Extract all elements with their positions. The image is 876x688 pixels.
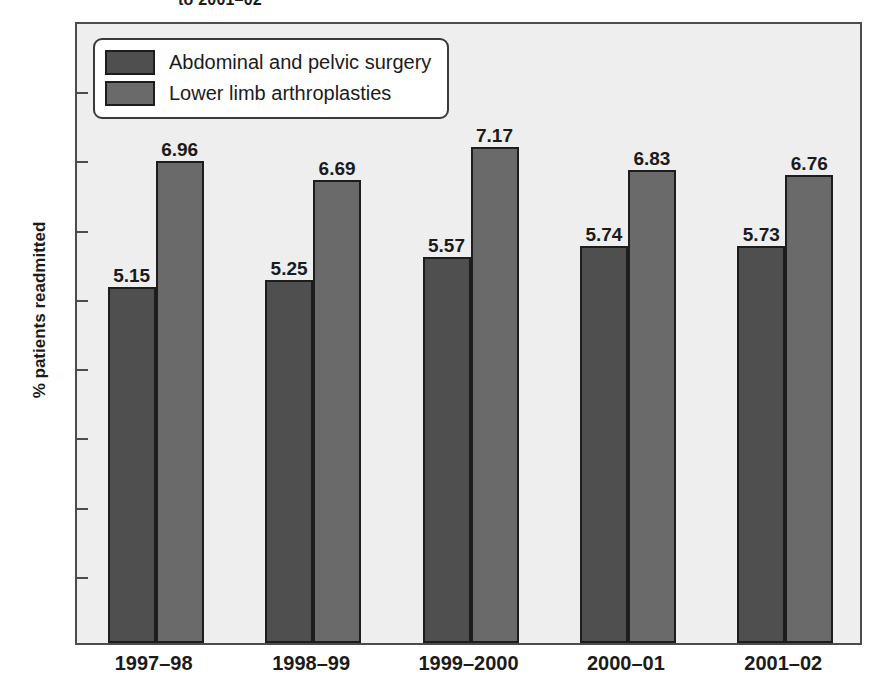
bar-value-label: 7.17 bbox=[476, 125, 513, 147]
legend-item[interactable]: Abdominal and pelvic surgery bbox=[105, 47, 431, 78]
y-axis-tick bbox=[77, 508, 88, 510]
y-axis-tick bbox=[77, 369, 88, 371]
x-axis-tick-label: 1998–99 bbox=[272, 652, 350, 675]
bar bbox=[313, 180, 361, 643]
bar bbox=[108, 287, 156, 643]
bar bbox=[471, 147, 519, 643]
y-axis-tick bbox=[77, 300, 88, 302]
legend-swatch-icon bbox=[105, 81, 155, 106]
y-axis-tick bbox=[77, 577, 88, 579]
y-axis-tick bbox=[77, 161, 88, 163]
bar bbox=[580, 246, 628, 643]
legend-item[interactable]: Lower limb arthroplasties bbox=[105, 78, 431, 109]
x-axis-tick-label: 2001–02 bbox=[744, 652, 822, 675]
chart-legend: Abdominal and pelvic surgeryLower limb a… bbox=[93, 38, 449, 119]
bar bbox=[628, 170, 676, 643]
bar-value-label: 6.69 bbox=[319, 158, 356, 180]
x-axis-tick-label: 1997–98 bbox=[115, 652, 193, 675]
legend-label: Abdominal and pelvic surgery bbox=[169, 51, 431, 74]
bar bbox=[156, 161, 204, 643]
bar-value-label: 5.15 bbox=[113, 265, 150, 287]
bar bbox=[423, 257, 471, 643]
legend-label: Lower limb arthroplasties bbox=[169, 82, 391, 105]
bar-value-label: 6.76 bbox=[791, 153, 828, 175]
bar-value-label: 5.74 bbox=[585, 224, 622, 246]
legend-swatch-icon bbox=[105, 50, 155, 75]
y-axis-title: % patients readmitted bbox=[30, 100, 50, 520]
x-axis-tick-label: 1999–2000 bbox=[418, 652, 518, 675]
y-axis-tick bbox=[77, 438, 88, 440]
x-axis-tick-label: 2000–01 bbox=[587, 652, 665, 675]
bar-value-label: 5.73 bbox=[743, 224, 780, 246]
y-axis-tick bbox=[77, 92, 88, 94]
chart-title: to 2001–02 bbox=[0, 0, 440, 9]
y-axis-tick bbox=[77, 231, 88, 233]
bar bbox=[265, 280, 313, 643]
bar bbox=[737, 246, 785, 643]
bar-value-label: 5.25 bbox=[271, 258, 308, 280]
bar-value-label: 5.57 bbox=[428, 235, 465, 257]
bar-value-label: 6.96 bbox=[161, 139, 198, 161]
bar bbox=[785, 175, 833, 643]
bar-value-label: 6.83 bbox=[633, 148, 670, 170]
bar-chart-figure: to 2001–02 % patients readmitted 5.156.9… bbox=[0, 0, 876, 688]
